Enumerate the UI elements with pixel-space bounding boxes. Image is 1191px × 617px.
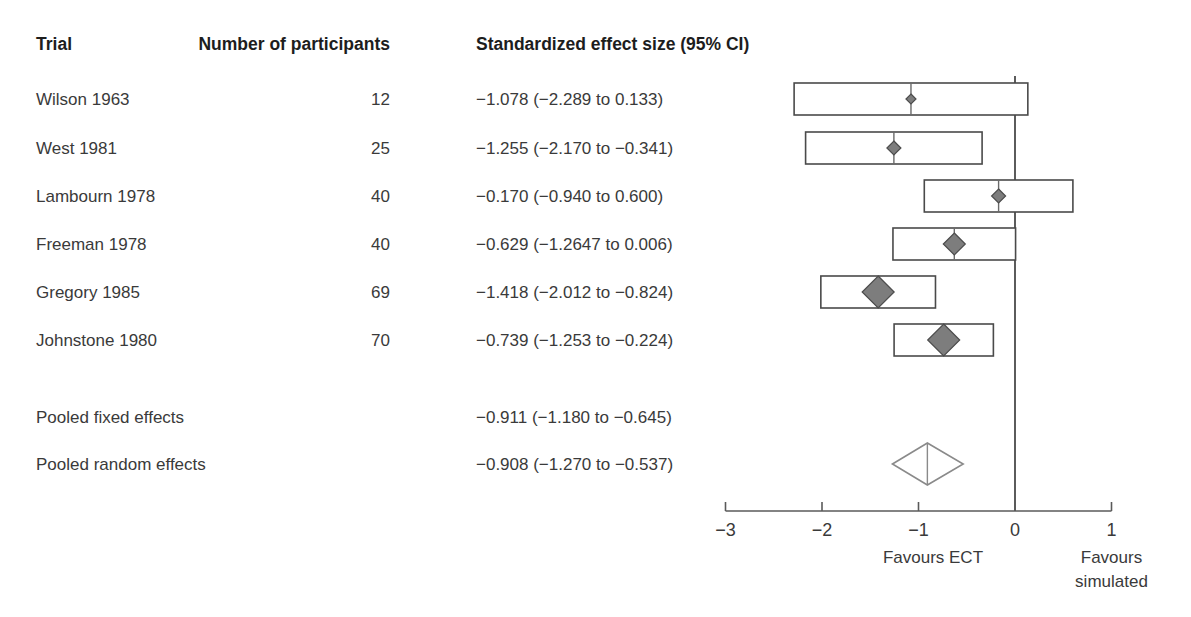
row-participants: 12 bbox=[371, 90, 390, 109]
favours-simulated-label-line1: Favours bbox=[1081, 548, 1142, 567]
header-effect-size: Standardized effect size (95% CI) bbox=[476, 34, 749, 54]
x-axis-tick-label: −2 bbox=[812, 520, 833, 540]
row-effect-size: −0.629 (−1.2647 to 0.006) bbox=[476, 235, 673, 254]
favours-simulated-label-line2: simulated bbox=[1075, 572, 1148, 591]
x-axis-tick-label: 1 bbox=[1106, 520, 1116, 540]
row-participants: 25 bbox=[371, 139, 390, 158]
x-axis-tick-label: −1 bbox=[908, 520, 929, 540]
row-effect-size: −0.170 (−0.940 to 0.600) bbox=[476, 187, 663, 206]
row-effect-size: −1.255 (−2.170 to −0.341) bbox=[476, 139, 673, 158]
row-participants: 40 bbox=[371, 187, 390, 206]
row-trial-name: Wilson 1963 bbox=[36, 90, 130, 109]
row-trial-name: West 1981 bbox=[36, 139, 117, 158]
pooled-label: Pooled fixed effects bbox=[36, 408, 184, 427]
row-participants: 70 bbox=[371, 331, 390, 350]
forest-row-5 bbox=[821, 276, 936, 308]
favours-ect-label: Favours ECT bbox=[883, 548, 983, 567]
row-trial-name: Freeman 1978 bbox=[36, 235, 147, 254]
header-trial: Trial bbox=[36, 34, 72, 54]
row-effect-size: −1.078 (−2.289 to 0.133) bbox=[476, 90, 663, 109]
forest-plot: TrialNumber of participantsStandardized … bbox=[0, 0, 1191, 617]
forest-row-1 bbox=[794, 83, 1028, 115]
row-participants: 69 bbox=[371, 283, 390, 302]
row-participants: 40 bbox=[371, 235, 390, 254]
x-axis-tick-label: −3 bbox=[715, 520, 736, 540]
row-trial-name: Gregory 1985 bbox=[36, 283, 140, 302]
pooled-effect-size: −0.911 (−1.180 to −0.645) bbox=[476, 408, 672, 427]
row-trial-name: Johnstone 1980 bbox=[36, 331, 157, 350]
row-effect-size: −0.739 (−1.253 to −0.224) bbox=[476, 331, 673, 350]
forest-row-4 bbox=[893, 228, 1016, 260]
pooled-label: Pooled random effects bbox=[36, 455, 206, 474]
pooled-effect-size: −0.908 (−1.270 to −0.537) bbox=[476, 455, 673, 474]
row-trial-name: Lambourn 1978 bbox=[36, 187, 155, 206]
forest-row-3 bbox=[924, 180, 1073, 212]
forest-row-6 bbox=[894, 324, 993, 356]
header-participants: Number of participants bbox=[198, 34, 390, 54]
row-effect-size: −1.418 (−2.012 to −0.824) bbox=[476, 283, 673, 302]
forest-row-2 bbox=[806, 132, 982, 164]
x-axis-tick-label: 0 bbox=[1010, 520, 1020, 540]
